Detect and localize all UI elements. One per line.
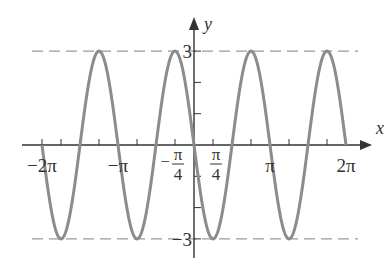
x-tick-label: π bbox=[265, 155, 275, 176]
x-tick-label: −2π bbox=[27, 155, 57, 176]
y-axis-arrow-icon bbox=[189, 17, 199, 30]
x-axis-arrow-icon bbox=[360, 140, 372, 150]
sine-graph: xy−2π−π−π4π4π2π3−3 bbox=[0, 0, 392, 265]
x-tick-label-denominator: 4 bbox=[174, 165, 183, 184]
y-tick-label: 3 bbox=[183, 41, 193, 62]
x-tick-label-numerator: π bbox=[212, 145, 221, 164]
x-axis-label: x bbox=[375, 118, 384, 138]
x-tick-label: −π bbox=[108, 155, 129, 176]
x-tick-label: 2π bbox=[336, 155, 356, 176]
x-tick-label-sign: − bbox=[160, 152, 170, 171]
y-tick-label: −3 bbox=[172, 229, 192, 250]
x-tick-label-denominator: 4 bbox=[212, 165, 221, 184]
x-tick-label-numerator: π bbox=[174, 145, 183, 164]
y-axis-label: y bbox=[202, 14, 212, 34]
